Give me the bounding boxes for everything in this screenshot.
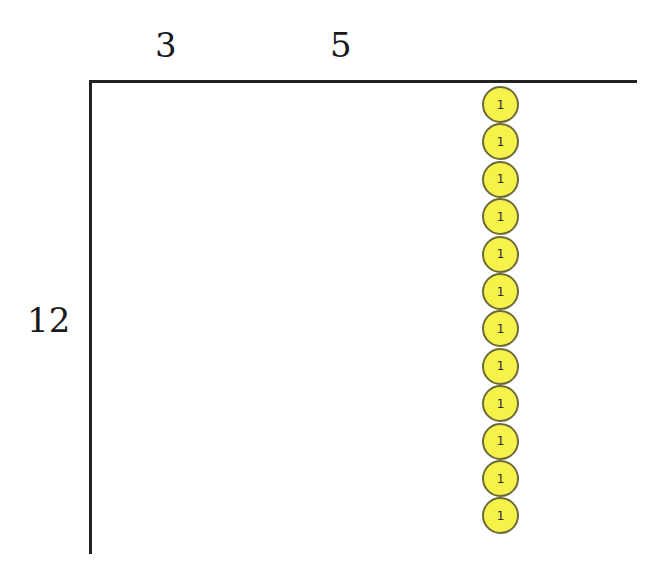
unit-disc[interactable]: 1 xyxy=(482,123,519,160)
unit-disc[interactable]: 1 xyxy=(482,273,519,310)
top-label-3: 3 xyxy=(155,28,177,62)
top-label-5: 5 xyxy=(330,28,352,62)
unit-disc[interactable]: 1 xyxy=(482,236,519,273)
unit-disc[interactable]: 1 xyxy=(482,310,519,347)
vertical-axis-line xyxy=(89,80,92,554)
unit-disc[interactable]: 1 xyxy=(482,86,519,123)
horizontal-axis-line xyxy=(89,80,637,83)
unit-disc[interactable]: 1 xyxy=(482,348,519,385)
unit-disc[interactable]: 1 xyxy=(482,198,519,235)
unit-disc[interactable]: 1 xyxy=(482,497,519,534)
unit-disc[interactable]: 1 xyxy=(482,423,519,460)
unit-disc[interactable]: 1 xyxy=(482,385,519,422)
unit-disc[interactable]: 1 xyxy=(482,161,519,198)
side-label-12: 12 xyxy=(27,303,70,337)
unit-disc[interactable]: 1 xyxy=(482,460,519,497)
